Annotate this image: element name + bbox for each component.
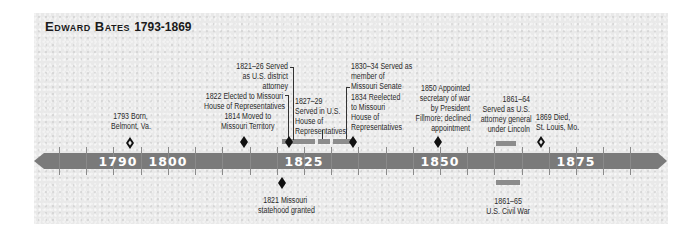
timeline-title: Edward Bates 1793-1869 [45,19,192,34]
bar-civil-war [496,180,520,185]
leader-line [290,67,294,68]
diamond-icon [434,136,442,148]
axis-tick [59,147,60,175]
axis-tick [603,147,604,175]
event-died: 1869 Died, St. Louis, Mo. [536,112,579,132]
axis-tick [331,147,332,175]
axis-tick [250,147,251,175]
event-elected-house: 1822 Elected to Missouri House of Repres… [204,91,283,111]
title-name: Edward Bates [45,19,130,34]
event-statehood: 1821 Missouri statehood granted [258,195,312,215]
event-missouri-territory: 1814 Moved to Missouri Territory [218,111,278,131]
year-label-1790: 1790 [99,154,138,169]
axis-tick [413,147,414,175]
year-label-1800: 1800 [149,154,188,169]
leader-line [285,95,289,96]
bar-attorney-general [496,141,516,146]
leader-line-elected-house [288,95,289,140]
axis-tick [86,147,87,175]
title-years: 1793-1869 [134,20,191,34]
axis-tick [494,147,495,175]
axis-tick [522,147,523,175]
axis-tick [358,147,359,175]
event-district-attorney: 1821–26 Served as U.S. district attorney [230,61,288,91]
event-attorney-general: 1861–64 Served as U.S. attorney general … [481,94,530,134]
year-label-1875: 1875 [557,154,596,169]
hollow-diamond-icon [537,136,545,148]
event-reelected: 1834 Reelected to Missouri House of Repr… [351,92,402,132]
axis-tick [630,147,631,175]
leader-line-senate [346,87,347,139]
event-secretary-of-war: 1850 Appointed secretary of war by Presi… [416,83,470,133]
diamond-icon [240,136,248,148]
axis-tick [141,147,142,175]
axis-tick [467,147,468,175]
event-missouri-senate: 1830–34 Served as member of Missouri Sen… [351,61,412,91]
year-label-1825: 1825 [285,154,324,169]
diamond-icon [278,177,286,189]
diamond-icon [349,136,357,148]
event-born: 1793 Born, Belmont, Va. [111,111,150,131]
axis-tick [549,147,550,175]
hollow-diamond-icon [126,137,134,149]
year-label-1850: 1850 [421,154,460,169]
leader-line [346,87,350,88]
axis-tick [195,147,196,175]
event-us-house: 1827–29 Served in U.S. House of Represen… [295,96,346,136]
axis-tick [277,147,278,175]
axis-tick [222,147,223,175]
axis-tick [386,147,387,175]
bar-us-house [318,139,330,144]
leader-line-district-attorney [293,67,294,140]
diamond-icon [285,136,293,148]
event-civil-war: 1861–65 U.S. Civil War [486,196,530,216]
